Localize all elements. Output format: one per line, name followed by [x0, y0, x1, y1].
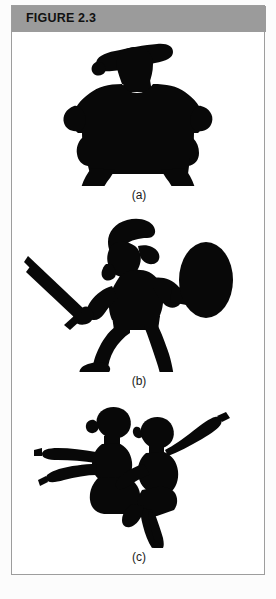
silhouette-warrior-with-sword-and-shield: [12, 212, 266, 372]
figure-panel-b: (b): [12, 212, 266, 396]
silhouette-standing-armored-warrior: [12, 34, 266, 186]
figure-panel-a: (a): [12, 32, 266, 210]
figure-panel-c-label: (c): [12, 550, 266, 564]
figure-header-band: FIGURE 2.3: [12, 6, 266, 32]
figure-panel-a-label: (a): [12, 188, 266, 202]
page-background: FIGURE 2.3: [0, 0, 276, 599]
figure-panel-c: (c): [12, 398, 266, 574]
figure-panels: (a): [12, 32, 266, 574]
figure-box: FIGURE 2.3: [11, 5, 265, 575]
figure-panel-b-label: (b): [12, 374, 266, 388]
figure-header-label: FIGURE 2.3: [26, 11, 96, 25]
silhouette-two-dancers: [12, 398, 266, 548]
